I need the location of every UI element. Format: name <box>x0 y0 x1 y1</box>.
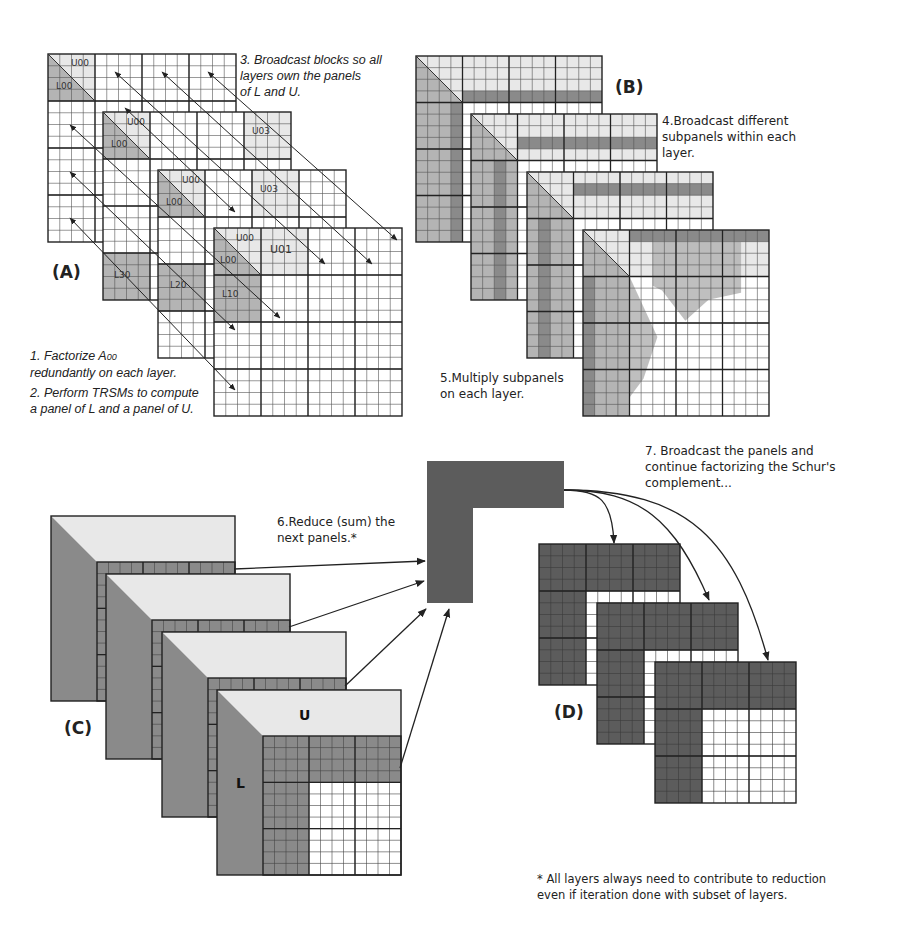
label-l20-layer3: L20 <box>170 280 186 290</box>
label-l: L <box>236 775 245 791</box>
step1-line2: redundantly on each layer. <box>30 365 177 381</box>
step6-line2: next panels.* <box>277 530 395 546</box>
label-l00-layer3: L00 <box>166 197 182 207</box>
step4-line1: 4.Broadcast different <box>662 113 796 129</box>
panel-d-tag: (D) <box>554 702 584 722</box>
panel-b-layer-4 <box>583 230 769 416</box>
step2-line1: 2. Perform TRSMs to compute <box>30 385 199 401</box>
panel-d-layers <box>539 544 796 803</box>
label-u00-layer4: U00 <box>236 233 254 243</box>
label-l00-layer1: L00 <box>56 81 72 91</box>
step4-line3: layer. <box>662 145 796 161</box>
step1-text: 1. Factorize A00 redundantly on each lay… <box>30 348 177 381</box>
panel-a-layer-4 <box>214 228 402 416</box>
step1-line1: 1. Factorize A00 <box>30 348 177 365</box>
step3-line3: of L and U. <box>240 84 382 100</box>
label-l00-layer2: L00 <box>111 139 127 149</box>
step4-text: 4.Broadcast different subpanels within e… <box>662 113 796 161</box>
label-u03-layer2: U03 <box>252 126 270 136</box>
panel-d-layer-3 <box>655 662 796 803</box>
step7-line3: complement... <box>645 475 836 491</box>
panel-c-tag: (C) <box>64 718 92 738</box>
step3-line1: 3. Broadcast blocks so all <box>240 52 382 68</box>
step7-line2: continue factorizing the Schur's <box>645 459 836 475</box>
panel-a-tag: (A) <box>52 262 81 282</box>
step3-text: 3. Broadcast blocks so all layers own th… <box>240 52 382 100</box>
step2-line2: a panel of L and a panel of U. <box>30 401 199 417</box>
footnote: * All layers always need to contribute t… <box>537 871 826 903</box>
label-l10-layer4: L10 <box>222 289 238 299</box>
step6-text: 6.Reduce (sum) the next panels.* <box>277 514 395 546</box>
step5-line2: on each layer. <box>440 386 564 402</box>
label-u00-layer3: U00 <box>182 175 200 185</box>
step1-main: 1. Factorize A <box>30 349 107 363</box>
label-l00-layer4: L00 <box>220 255 236 265</box>
step7-line1: 7. Broadcast the panels and <box>645 443 836 459</box>
label-u00-layer1: U00 <box>71 58 89 68</box>
label-u02-layer3: U03 <box>260 184 278 194</box>
panel-c-layers <box>51 516 401 875</box>
panel-b-layers <box>416 56 769 416</box>
label-u: U <box>299 707 310 723</box>
label-u00-layer2: U00 <box>127 117 145 127</box>
step6-line1: 6.Reduce (sum) the <box>277 514 395 530</box>
step4-line2: subpanels within each <box>662 129 796 145</box>
step3-line2: layers own the panels <box>240 68 382 84</box>
label-u01-layer4: U01 <box>270 243 292 256</box>
step5-text: 5.Multiply subpanels on each layer. <box>440 370 564 402</box>
step1-subscript: 00 <box>107 352 117 362</box>
footnote-line1: * All layers always need to contribute t… <box>537 871 826 887</box>
panel-b-tag: (B) <box>615 77 644 97</box>
step7-text: 7. Broadcast the panels and continue fac… <box>645 443 836 491</box>
step2-text: 2. Perform TRSMs to compute a panel of L… <box>30 385 199 417</box>
footnote-line2: even if iteration done with subset of la… <box>537 887 826 903</box>
step5-line1: 5.Multiply subpanels <box>440 370 564 386</box>
label-l30-layer2: L30 <box>114 270 130 280</box>
